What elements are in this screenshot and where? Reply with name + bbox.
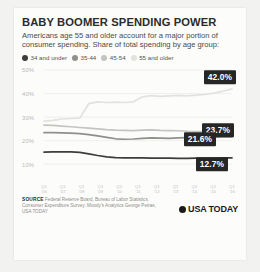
legend-item-1[interactable]: 35-44 <box>72 54 96 61</box>
card-deck: Americans age 55 and older account for a… <box>22 31 228 49</box>
x-axis-tick-label: Q1'16 <box>229 185 235 194</box>
data-callout-0: 42.0% <box>204 70 236 84</box>
x-axis-tick-label: Q1'09 <box>97 185 103 194</box>
y-axis-tick-label: 20% <box>22 138 34 144</box>
legend-item-3[interactable]: 55 and older <box>131 54 174 61</box>
y-axis-tick-label: 40% <box>22 91 34 97</box>
x-axis-tick-label: Q1'15 <box>210 185 216 194</box>
source-line-1: Federal Reserve Board, Bureau of Labor <box>45 197 128 202</box>
card-footer: SOURCE Federal Reserve Board, Bureau of … <box>22 194 238 214</box>
x-axis-tick-label: Q1'14 <box>191 185 197 194</box>
legend-label: 34 and under <box>31 54 67 61</box>
y-axis-tick-label: 50% <box>22 67 34 73</box>
x-axis-tick-label: Q1'11 <box>135 185 141 194</box>
brand-name: USA TODAY <box>188 204 238 214</box>
x-axis-tick-label: Q1'06 <box>41 185 47 194</box>
y-axis-tick-label: 10% <box>22 162 34 168</box>
card-inner: BABY BOOMER SPENDING POWER Americans age… <box>22 16 238 252</box>
x-axis-tick-label: Q1'08 <box>79 185 85 194</box>
data-callout-2: 21.6% <box>184 133 216 147</box>
legend-item-0[interactable]: 34 and under <box>22 54 67 61</box>
chart-plot-area: 50%40%30%20%10%Q1'06Q1'07Q1'08Q1'09Q1'10… <box>22 66 238 194</box>
usa-today-globe-icon <box>179 206 186 213</box>
x-axis-tick-label: Q1'07 <box>60 185 66 194</box>
data-callout-3: 12.7% <box>196 157 228 171</box>
legend-label: 35-44 <box>80 54 96 61</box>
legend-label: 55 and older <box>139 54 173 61</box>
legend-label: 45-54 <box>110 54 126 61</box>
source-note: SOURCE Federal Reserve Board, Bureau of … <box>22 197 162 214</box>
x-axis-tick-label: Q1'10 <box>116 185 122 194</box>
legend-swatch-icon <box>22 55 28 61</box>
source-label: SOURCE <box>22 197 44 202</box>
legend-item-2[interactable]: 45-54 <box>101 54 125 61</box>
legend-swatch-icon <box>131 55 137 61</box>
usa-today-logo: USA TODAY <box>179 204 238 214</box>
y-axis-tick-label: 30% <box>22 115 34 121</box>
x-axis-tick-label: Q1'13 <box>173 185 179 194</box>
page-title: BABY BOOMER SPENDING POWER <box>22 16 238 28</box>
x-axis-tick-label: Q1'12 <box>154 185 160 194</box>
infographic-card: BABY BOOMER SPENDING POWER Americans age… <box>14 8 246 260</box>
legend-swatch-icon <box>101 55 107 61</box>
chart-legend: 34 and under35-4445-5455 and older <box>22 54 238 61</box>
legend-swatch-icon <box>72 55 78 61</box>
